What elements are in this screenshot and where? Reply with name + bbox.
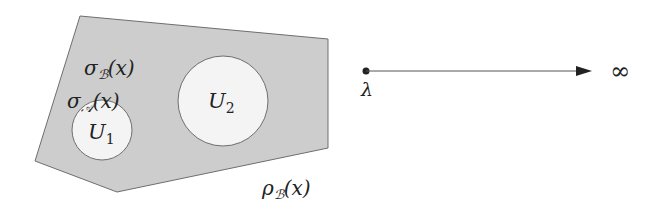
lambda-label: λ [360, 78, 373, 100]
rho-b-label: ρℬ(x) [261, 176, 311, 202]
arrowhead-icon [576, 66, 592, 76]
sigma-a-label: σ𝒜(x) [67, 89, 120, 115]
sigma-b-label: σℬ(x) [84, 56, 135, 82]
diagram-canvas: U1 U2 σℬ(x) σ𝒜(x) ρℬ(x) λ ∞ [0, 0, 661, 220]
ray [363, 66, 593, 76]
infinity-label: ∞ [610, 57, 630, 85]
